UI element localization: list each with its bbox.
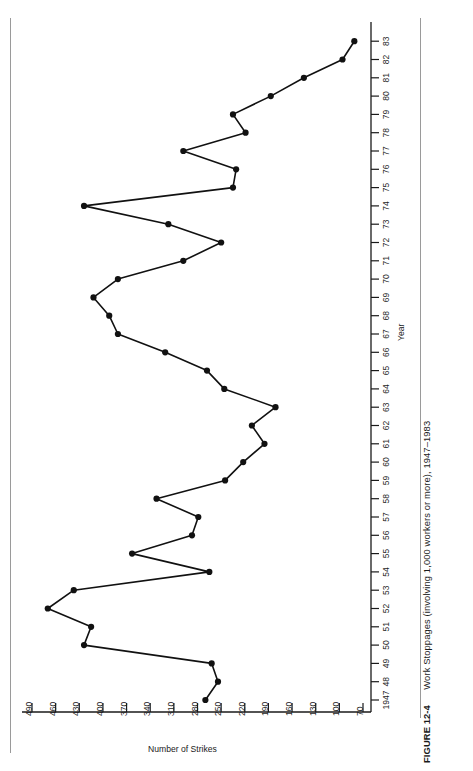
data-point	[339, 56, 345, 62]
year-tick-label: 71	[381, 256, 391, 266]
year-tick-label: 49	[381, 658, 391, 668]
data-line	[48, 41, 355, 700]
data-point	[268, 93, 274, 99]
year-tick-label: 50	[381, 640, 391, 650]
year-tick-label: 70	[381, 274, 391, 284]
year-tick-label: 82	[381, 55, 391, 65]
year-tick-label: 65	[381, 366, 391, 376]
data-point	[218, 239, 224, 245]
value-tick-label: 280	[190, 702, 200, 716]
data-point	[261, 441, 267, 447]
year-tick-label: 80	[381, 91, 391, 101]
y-axis-title: Number of Strikes	[148, 744, 217, 754]
value-tick-label: 250	[213, 702, 223, 716]
data-point	[71, 587, 77, 593]
data-point	[115, 276, 121, 282]
year-tick-label: 64	[381, 384, 391, 394]
data-point	[88, 624, 94, 630]
year-tick-label: 74	[381, 201, 391, 211]
data-point	[301, 75, 307, 81]
data-point	[230, 185, 236, 191]
data-point	[81, 642, 87, 648]
value-tick-label: 100	[331, 702, 341, 716]
year-tick-label: 75	[381, 183, 391, 193]
data-point	[180, 258, 186, 264]
year-tick-label: 81	[381, 73, 391, 83]
year-tick-label: 83	[381, 36, 391, 46]
value-axis-ticks: 4904604304003703403102802502201901601301…	[24, 702, 365, 716]
data-point	[202, 697, 208, 703]
data-point	[129, 551, 135, 557]
data-point	[115, 331, 121, 337]
figure-page: 4904604304003703403102802502201901601301…	[0, 0, 473, 771]
figure-caption-block: FIGURE 12-4 Work Stoppages (involving 1,…	[432, 3, 462, 763]
year-tick-label: 73	[381, 219, 391, 229]
value-tick-label: 70	[355, 706, 365, 716]
data-point	[209, 660, 215, 666]
data-point	[153, 496, 159, 502]
data-point	[165, 221, 171, 227]
data-point	[106, 313, 112, 319]
data-point	[206, 569, 212, 575]
value-tick-label: 400	[95, 702, 105, 716]
year-tick-label: 68	[381, 311, 391, 321]
year-tick-label: 53	[381, 585, 391, 595]
value-tick-label: 340	[142, 702, 152, 716]
value-tick-label: 130	[308, 702, 318, 716]
value-tick-label: 310	[166, 702, 176, 716]
year-tick-label: 78	[381, 128, 391, 138]
year-tick-label: 67	[381, 329, 391, 339]
value-tick-label: 160	[284, 702, 294, 716]
figure-number: FIGURE 12-4	[421, 705, 432, 763]
data-point	[162, 349, 168, 355]
data-point	[221, 386, 227, 392]
year-tick-label: 61	[381, 439, 391, 449]
year-tick-label: 79	[381, 109, 391, 119]
year-tick-label: 57	[381, 512, 391, 522]
year-tick-label: 72	[381, 238, 391, 248]
year-tick-label: 62	[381, 421, 391, 431]
data-point	[180, 148, 186, 154]
axes	[22, 22, 371, 712]
year-tick-label: 66	[381, 347, 391, 357]
data-point	[272, 404, 278, 410]
line-chart: 4904604304003703403102802502201901601301…	[0, 0, 473, 771]
year-tick-label: 56	[381, 530, 391, 540]
data-point	[249, 422, 255, 428]
year-tick-label: 51	[381, 622, 391, 632]
data-point	[351, 38, 357, 44]
value-tick-label: 490	[24, 702, 34, 716]
data-point	[222, 477, 228, 483]
value-tick-label: 190	[260, 702, 270, 716]
year-tick-label: 1947	[381, 690, 391, 709]
data-point	[195, 514, 201, 520]
data-point	[45, 605, 51, 611]
data-point	[242, 130, 248, 136]
data-point	[240, 459, 246, 465]
data-point	[81, 203, 87, 209]
year-tick-label: 52	[381, 604, 391, 614]
year-tick-label: 59	[381, 475, 391, 485]
year-tick-label: 76	[381, 164, 391, 174]
data-point	[215, 679, 221, 685]
data-point	[90, 294, 96, 300]
value-tick-label: 370	[119, 702, 129, 716]
value-tick-label: 460	[48, 702, 58, 716]
data-point	[204, 368, 210, 374]
data-point	[230, 111, 236, 117]
value-tick-label: 220	[237, 702, 247, 716]
x-axis-title: Year	[396, 324, 406, 341]
year-axis-ticks: 1947484950515253545556575859606162636465…	[371, 36, 391, 709]
year-tick-label: 63	[381, 402, 391, 412]
year-tick-label: 54	[381, 567, 391, 577]
year-tick-label: 69	[381, 292, 391, 302]
year-tick-label: 58	[381, 494, 391, 504]
value-tick-label: 430	[71, 702, 81, 716]
year-tick-label: 60	[381, 457, 391, 467]
year-tick-label: 48	[381, 677, 391, 687]
data-point	[189, 532, 195, 538]
data-points	[45, 38, 358, 703]
figure-caption-text: Work Stoppages (involving 1,000 workers …	[421, 421, 432, 690]
data-point	[233, 166, 239, 172]
year-tick-label: 55	[381, 549, 391, 559]
